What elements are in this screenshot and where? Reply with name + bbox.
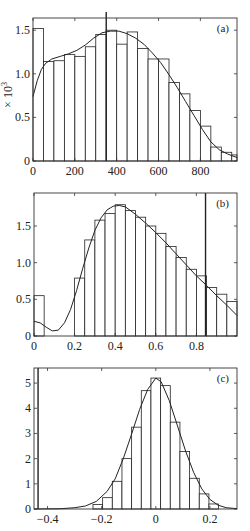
histogram-bar [159,59,169,161]
histogram-bar [179,94,189,161]
histogram-bar [75,56,85,161]
x-tick-label: −0.2 [91,512,113,526]
y-tick-label: 4 [25,401,31,415]
histogram-bar [54,61,64,161]
panel-label: (a) [217,22,230,35]
histogram-bar [136,217,146,336]
histogram-bar [169,83,179,161]
histogram-bar [96,35,106,161]
y-tick-label: 0 [25,502,31,516]
y-tick-label: 5 [25,376,31,390]
y-tick-label: 3 [25,426,31,440]
histogram-bar [112,481,122,509]
histogram-bar [166,247,176,336]
histogram-bar [151,378,161,509]
histogram-bar [146,226,156,336]
figure: 020040060080000.51.01.5(a) 00.20.40.60.8… [0,0,250,531]
panel-label: (c) [217,372,230,385]
y-tick-label: 1 [25,477,31,491]
x-tick-label: 0.4 [108,339,123,353]
histogram-bar [200,126,210,161]
histogram-panel-c: −0.4−0.200.2012345(c) [25,368,237,526]
histogram-bar [125,211,135,336]
x-tick-label: 200 [66,164,84,178]
histogram-bar [138,49,148,161]
histogram-bar [190,478,200,509]
histogram-bar [211,147,221,161]
y-tick-label: 0.5 [16,292,31,306]
y-axis-label-scale: × 103 [0,82,15,108]
histogram-bar [117,44,127,161]
y-tick-label: 1.0 [15,67,30,81]
histogram-bar [34,296,44,336]
panel-label: (b) [216,197,229,210]
histogram-bar [85,47,95,161]
y-tick-label: 2 [25,452,31,466]
x-tick-label: 0.6 [148,339,163,353]
y-tick-label: 1.5 [16,219,31,233]
y-tick-label: 1.0 [16,256,31,270]
histogram-bar [186,269,196,336]
histogram-bar [115,205,125,336]
histogram-bar [170,422,180,509]
x-tick-label: 0.2 [67,339,82,353]
histogram-bar [141,391,151,509]
y-tick-label: 0 [25,329,31,343]
histogram-bar [132,427,142,509]
histogram-bar [122,459,132,509]
histogram-bar [33,28,43,161]
x-tick-label: −0.4 [37,512,59,526]
y-tick-label: 1.5 [15,23,30,37]
x-tick-label: 0.2 [202,512,217,526]
histogram-panel-b: 00.20.40.60.800.51.01.5(b) [16,193,237,353]
histogram-bar [161,386,171,509]
histogram-bar [43,62,53,161]
histogram-bar [176,258,186,336]
histogram-bar [127,32,137,161]
histogram-bar [85,240,95,336]
histogram-bar [156,233,166,336]
y-tick-label: 0.5 [15,110,30,124]
histogram-bar [75,278,85,336]
x-tick-label: 600 [150,164,168,178]
histogram-bar [105,214,115,336]
x-tick-label: 0 [30,164,36,178]
x-tick-label: 0.8 [189,339,204,353]
y-tick-label: 0 [24,154,30,168]
x-tick-label: 400 [108,164,126,178]
x-tick-label: 0 [153,512,159,526]
histogram-bar [106,30,116,161]
x-tick-label: 800 [191,164,209,178]
histogram-bar [64,55,74,161]
histogram-bar [103,498,113,509]
histogram-bar [180,452,190,509]
histogram-bar [95,220,105,336]
histogram-bar [148,59,158,161]
histogram-panel-a: 020040060080000.51.01.5(a) [15,12,237,178]
x-tick-label: 0 [31,339,37,353]
histogram-bar [93,504,103,509]
